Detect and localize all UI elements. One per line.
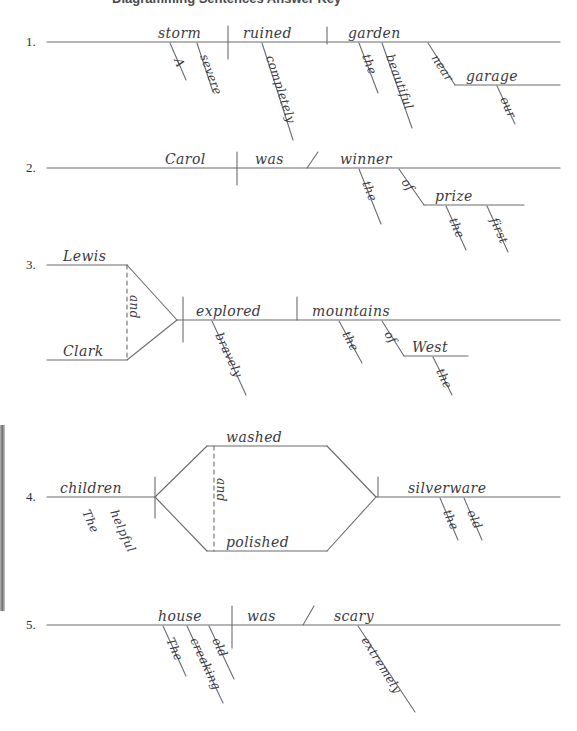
word-completely: completely [263,54,298,125]
word-children: children [60,480,122,496]
word-was-2: was [255,151,284,167]
word-the-5: The [163,636,186,664]
word-extremely: extremely [358,634,404,696]
word-garage: garage [466,68,518,84]
diagram-3 [47,265,560,395]
predicate-adjective-divider-5 [303,606,314,625]
word-winner: winner [340,151,393,167]
word-silverware: silverware [408,480,486,496]
word-the-4b: the [440,508,461,533]
worksheet-page: Diagramming Sentences Answer Key [0,0,577,731]
word-helpful: helpful [107,508,138,555]
word-house: house [158,608,202,624]
branch-lower-3 [127,320,177,360]
word-prize: prize [435,188,473,204]
word-carol: Carol [165,151,206,167]
word-polished: polished [226,534,289,550]
word-explored: explored [196,303,261,319]
word-bravely: bravely [212,330,245,379]
exercise-number-4: 4. [26,489,36,504]
exercise-number-3: 3. [26,257,36,272]
diagram-5 [47,606,560,712]
exercise-number-1: 1. [26,34,36,49]
word-mountains: mountains [312,303,390,319]
word-the-3: the [339,329,361,354]
word-the-2b: the [446,216,467,241]
word-the-3b: the [433,366,455,391]
word-storm: storm [158,25,201,41]
word-our: our [497,95,519,121]
word-clark: Clark [63,343,104,359]
word-old-4: old [464,508,485,532]
diagram-2 [47,152,560,252]
word-of-3: of [381,328,401,348]
branch-upper-right-4 [327,446,376,497]
word-old-5: old [209,635,230,659]
word-was-5: was [247,608,276,624]
predicate-nominative-divider-2 [307,152,318,168]
exercise-number-5: 5. [26,617,36,632]
word-lewis: Lewis [62,248,106,264]
word-washed: washed [226,429,282,445]
word-the-1: the [359,52,380,76]
word-a: A [171,55,188,70]
word-first: first [487,215,511,246]
word-west: West [412,339,448,355]
exercise-number-2: 2. [26,160,36,175]
branch-lower-right-4 [327,497,376,551]
word-the-2: the [359,179,380,204]
branch-lower-left-4 [155,497,207,551]
diagram-canvas: 1. 2. 3. 4. 5. storm A severe ruined com… [0,0,577,731]
word-beautiful: beautiful [383,52,416,111]
word-scary: scary [334,608,375,624]
word-severe: severe [197,52,225,97]
word-and-3: and [127,295,141,319]
word-the-4: The [79,508,102,536]
word-ruined: ruined [243,25,292,41]
branch-upper-left-4 [155,446,207,497]
word-garden: garden [348,25,401,41]
word-and-4: and [214,478,228,502]
